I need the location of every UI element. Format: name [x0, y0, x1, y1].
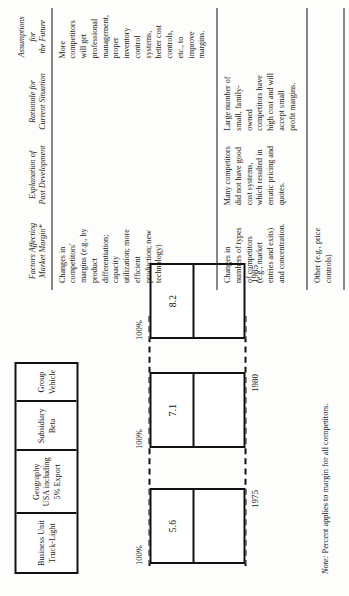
worksheet-header-row: Factors Affecting Market Margin* Explana…: [16, 8, 51, 290]
bar-group-1980: 100% 7.1 1980: [149, 372, 245, 448]
cell-rationale-1[interactable]: Large number of small, family-owned comp…: [217, 65, 307, 137]
bar-year-label-1980: 1980: [249, 374, 259, 392]
cell-assumptions-0[interactable]: More competitors will get professional m…: [51, 8, 217, 65]
bu-geography-line-1: Geography: [31, 464, 42, 500]
cell-explanation-2[interactable]: [307, 138, 344, 213]
header-assumptions-for-the-future: Assumptions for the Future: [16, 8, 51, 65]
document-page: Business Unit Truck-Light Geography USA …: [0, 0, 349, 596]
cell-factor-0: Changes in competitors' margins (e.g., b…: [51, 212, 217, 290]
bar-segment-margin-1980: 7.1: [151, 374, 194, 446]
header-rationale-for-current-situation: Rationale for Current Situation: [16, 65, 51, 137]
bar-year-label-1975: 1975: [249, 490, 259, 508]
bar-top-label-1985: 100%: [133, 320, 143, 340]
bu-cell-group: Group Vehicle: [16, 364, 76, 401]
page-stage: Business Unit Truck-Light Geography USA …: [0, 0, 349, 596]
chart-note: Note: Percent applies to margin for all …: [320, 404, 329, 574]
header-explanation-of-past-development: Explanation of Past Development: [16, 138, 51, 213]
bu-group-line-2: Vehicle: [47, 370, 58, 395]
cell-rationale-2[interactable]: [307, 65, 344, 137]
cell-explanation-1[interactable]: Many competitors did not have good cost …: [217, 138, 307, 213]
bu-business-unit-line-2: Truck-Light: [47, 523, 58, 563]
worksheet-table: Factors Affecting Market Margin* Explana…: [16, 8, 344, 290]
bar-top-label-1975: 100%: [133, 545, 143, 565]
bar-1980: 7.1: [149, 372, 245, 448]
bar-segment-remainder-1980: [194, 374, 243, 446]
bu-geography-line-2: USA including: [41, 457, 52, 506]
header-rationale-line-2: Current Situation: [37, 72, 48, 130]
header-assumptions-line-1: Assumptions for: [16, 15, 37, 58]
cell-factor-2: Other (e.g., price controls): [307, 212, 344, 290]
bu-cell-geography: Geography USA including 5% Export: [16, 449, 76, 512]
bar-value-1975: 5.6: [167, 490, 177, 562]
margin-chart: Business Unit Truck-Light Geography USA …: [0, 296, 349, 596]
cell-rationale-0[interactable]: [51, 65, 217, 137]
bar-segment-remainder-1975: [194, 490, 243, 562]
business-unit-box: Business Unit Truck-Light Geography USA …: [14, 362, 78, 574]
bu-group-line-1: Group: [36, 372, 47, 393]
bar-value-1980: 7.1: [167, 374, 177, 446]
cell-assumptions-2[interactable]: [307, 8, 344, 65]
table-row: Changes in numbers of types of competito…: [217, 8, 307, 290]
bar-top-label-1980: 100%: [133, 429, 143, 449]
bu-cell-business-unit: Business Unit Truck-Light: [16, 512, 76, 572]
table-row: Changes in competitors' margins (e.g., b…: [51, 8, 217, 290]
chart-note-text: Percent applies to margin for all compet…: [320, 404, 329, 556]
cell-explanation-0[interactable]: [51, 138, 217, 213]
table-row: Other (e.g., price controls): [307, 8, 344, 290]
cell-factor-1: Changes in numbers of types of competito…: [217, 212, 307, 290]
header-factors-line-2: Market Margin*: [37, 219, 48, 283]
header-rationale-line-1: Rationale for: [27, 72, 38, 130]
header-factors-line-1: Factors Affecting: [27, 219, 38, 283]
worksheet-table-area: Factors Affecting Market Margin* Explana…: [0, 0, 349, 296]
bu-subsidiary-line-1: Subsidiary: [36, 408, 47, 443]
header-explanation-line-1: Explanation of: [27, 145, 38, 206]
bu-cell-subsidiary: Subsidiary Beta: [16, 400, 76, 449]
header-explanation-line-2: Past Development: [37, 145, 48, 206]
header-assumptions-line-2: the Future: [37, 15, 48, 58]
bar-1975: 5.6: [149, 488, 245, 564]
bu-business-unit-line-1: Business Unit: [36, 520, 47, 566]
chart-note-prefix: Note:: [320, 556, 329, 574]
bar-group-1975: 100% 5.6 1975: [149, 488, 245, 564]
bar-segment-margin-1975: 5.6: [151, 490, 194, 562]
bu-geography-line-3: 5% Export: [52, 464, 63, 499]
cell-assumptions-1[interactable]: [217, 8, 307, 65]
header-factors-affecting-market-margin: Factors Affecting Market Margin*: [16, 212, 51, 290]
bu-subsidiary-line-2: Beta: [47, 418, 58, 433]
